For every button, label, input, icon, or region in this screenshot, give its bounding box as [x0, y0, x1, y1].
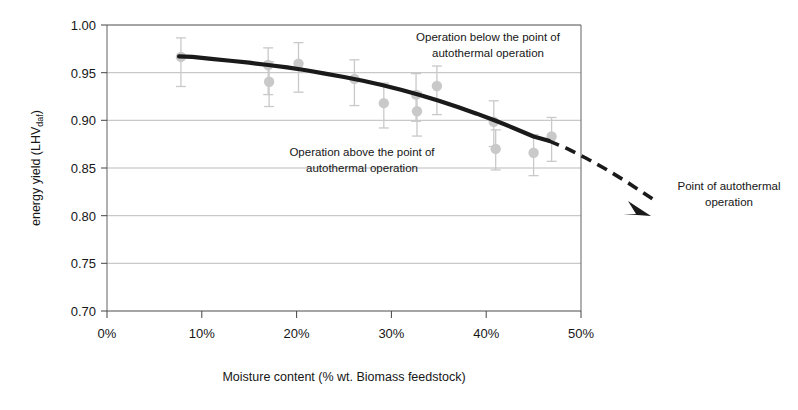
y-tick-label: 0.85 — [71, 161, 96, 176]
x-tick-labels: 0% 10% 20% 30% 40% 50% — [98, 326, 595, 341]
annotation-above-line-2: autothermal operation — [306, 162, 418, 174]
annotation-below-line-2: autothermal operation — [432, 47, 544, 59]
data-point-marker — [432, 81, 442, 91]
y-axis-ticks — [101, 25, 107, 311]
data-point-marker — [379, 98, 389, 108]
data-point-marker — [264, 77, 274, 87]
x-axis-ticks — [107, 311, 581, 318]
y-tick-labels: 1.00 0.95 0.90 0.85 0.80 0.75 0.70 — [71, 18, 96, 319]
x-tick-label: 20% — [284, 326, 310, 341]
svg-text:energy yield (LHVdaf): energy yield (LHVdaf) — [29, 110, 45, 226]
y-tick-label: 1.00 — [71, 18, 96, 33]
annotation-autothermal-line-1: Point of autothermal — [678, 180, 781, 192]
y-tick-label: 0.70 — [71, 304, 96, 319]
energy-yield-chart: 1.00 0.95 0.90 0.85 0.80 0.75 0.70 0% 10… — [0, 0, 798, 410]
y-tick-label: 0.90 — [71, 113, 96, 128]
annotation-autothermal-line-2: operation — [705, 196, 753, 208]
data-point-marker — [528, 148, 538, 158]
annotation-below-line-1: Operation below the point of — [416, 31, 561, 43]
data-point-marker — [412, 106, 422, 116]
x-tick-label: 30% — [378, 326, 404, 341]
data-point-marker — [490, 144, 500, 154]
x-tick-label: 40% — [473, 326, 499, 341]
x-tick-label: 10% — [189, 326, 215, 341]
y-axis-title-subscript: daf — [35, 114, 45, 127]
x-tick-label: 50% — [568, 326, 594, 341]
y-tick-label: 0.95 — [71, 66, 96, 81]
chart-canvas: 1.00 0.95 0.90 0.85 0.80 0.75 0.70 0% 10… — [0, 0, 798, 410]
y-axis-title: energy yield (LHVdaf) — [29, 110, 45, 226]
x-axis-title: Moisture content (% wt. Biomass feedstoc… — [222, 370, 465, 384]
annotation-autothermal-point: Point of autothermal operation — [678, 180, 781, 208]
y-axis-title-main: energy yield (LHV — [29, 126, 43, 226]
y-tick-label: 0.80 — [71, 209, 96, 224]
y-tick-label: 0.75 — [71, 256, 96, 271]
annotation-above-line-1: Operation above the point of — [289, 146, 435, 158]
y-axis-title-suffix: ) — [29, 110, 43, 114]
x-tick-label: 0% — [98, 326, 117, 341]
autothermal-point-arrowhead-icon — [623, 201, 651, 216]
